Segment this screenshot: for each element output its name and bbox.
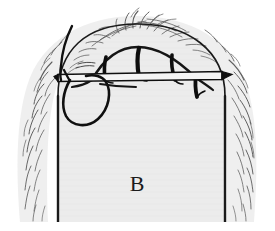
left-crop-strip [0, 0, 12, 231]
figure-container: B [0, 0, 275, 231]
surgical-illustration: B [0, 0, 275, 231]
right-crop-strip [263, 0, 275, 231]
bottom-crop-strip [0, 222, 275, 231]
panel-label: B [130, 171, 145, 196]
